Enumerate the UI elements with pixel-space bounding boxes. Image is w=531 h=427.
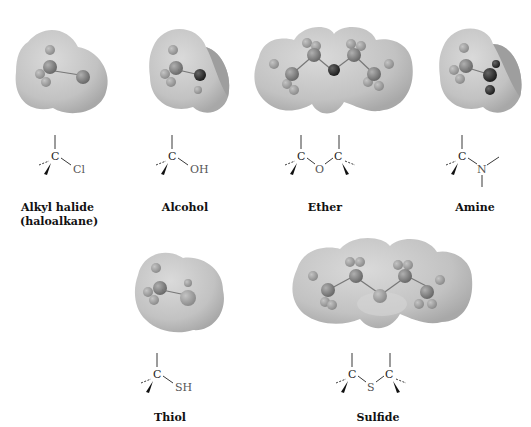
label-amine: Amine xyxy=(445,201,505,215)
label-alkyl-halide: Alkyl halide (haloalkane) xyxy=(20,201,95,229)
label-sulfide: Sulfide xyxy=(348,411,408,425)
alcohol-structure: C OH xyxy=(153,132,233,180)
nitrogen-label: N xyxy=(477,163,487,176)
alkyl-halide-structure: C Cl xyxy=(35,132,115,180)
svg-text:C: C xyxy=(153,368,161,381)
ether-model xyxy=(244,22,416,122)
hydroxyl-label: OH xyxy=(190,163,209,176)
svg-text:C: C xyxy=(334,150,342,163)
sulfur-label: S xyxy=(367,381,375,394)
svg-text:C: C xyxy=(385,368,393,381)
sulfhydryl-label: SH xyxy=(175,381,192,394)
oxygen-label: O xyxy=(315,163,324,176)
label-alkyl-halide-sub: (haloalkane) xyxy=(20,215,95,229)
amine-structure: C N xyxy=(443,132,531,192)
svg-text:C: C xyxy=(51,150,59,163)
svg-text:C: C xyxy=(297,150,305,163)
label-alcohol: Alcohol xyxy=(150,201,220,215)
alkyl-halide-model xyxy=(8,22,113,122)
clipped-caption xyxy=(70,0,180,4)
svg-text:C: C xyxy=(348,368,356,381)
sulfide-structure: C S C xyxy=(334,350,424,398)
amine-model xyxy=(428,22,528,122)
thiol-structure: C SH xyxy=(138,350,218,398)
ether-structure: C O C xyxy=(283,132,373,180)
sulfide-model xyxy=(282,234,482,344)
svg-text:C: C xyxy=(458,150,466,163)
alcohol-model xyxy=(138,22,238,122)
label-ether: Ether xyxy=(295,201,355,215)
thiol-model xyxy=(128,240,238,340)
label-thiol: Thiol xyxy=(145,411,195,425)
chlorine-label: Cl xyxy=(73,163,85,176)
label-alkyl-halide-name: Alkyl halide xyxy=(20,201,95,215)
svg-text:C: C xyxy=(168,150,176,163)
